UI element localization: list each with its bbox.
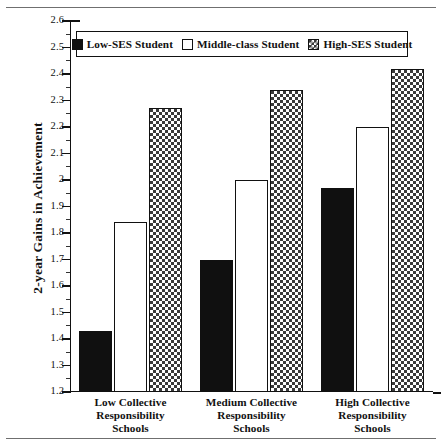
x-axis-category-label: High CollectiveResponsibilitySchools xyxy=(312,396,433,435)
x-axis-right-cap xyxy=(433,392,441,394)
x-axis-category-line: Low Collective xyxy=(70,396,191,409)
white-outline-square-icon xyxy=(182,39,193,50)
bar-mid xyxy=(356,127,389,392)
y-tick-label: 1.7 xyxy=(24,254,64,264)
x-axis-category-label: Low CollectiveResponsibilitySchools xyxy=(70,396,191,435)
y-tick-label: 2.1 xyxy=(24,148,64,158)
bar-low xyxy=(79,331,112,392)
x-axis-category-line: Schools xyxy=(312,422,433,435)
x-axis-labels: Low CollectiveResponsibilitySchoolsMediu… xyxy=(70,396,433,442)
y-tick-label: 2.4 xyxy=(24,68,64,78)
black-solid-square-icon xyxy=(72,39,83,50)
page-rule-top xyxy=(6,7,436,8)
bar-group xyxy=(70,21,191,392)
x-axis-category-line: High Collective xyxy=(312,396,433,409)
x-axis-category-line: Responsibility xyxy=(191,409,312,422)
figure-panel: 2-year Gains in Achievement 1.21.31.41.5… xyxy=(0,0,442,445)
bar-low xyxy=(321,188,354,392)
bar-high xyxy=(270,90,303,392)
y-tick-label: 1.6 xyxy=(24,280,64,290)
x-axis-category-line: Responsibility xyxy=(70,409,191,422)
y-tick-label: 1.9 xyxy=(24,201,64,211)
y-tick-label: 2.6 xyxy=(24,15,64,25)
bar-group xyxy=(191,21,312,392)
legend-item: High-SES Student xyxy=(308,38,412,50)
y-tick-label: 1.2 xyxy=(24,386,64,396)
x-axis-category-line: Schools xyxy=(191,422,312,435)
x-axis-category-line: Schools xyxy=(70,422,191,435)
y-tick-label: 1.5 xyxy=(24,307,64,317)
bar-low xyxy=(200,260,233,393)
y-tick-label: 1.3 xyxy=(24,360,64,370)
checkered-square-icon xyxy=(308,39,319,50)
bar-group xyxy=(312,21,433,392)
legend-item-label: High-SES Student xyxy=(323,38,412,50)
y-tick-label: 2 xyxy=(24,174,64,184)
legend-item: Low-SES Student xyxy=(72,38,173,50)
x-axis-category-line: Responsibility xyxy=(312,409,433,422)
y-tick-label: 2.5 xyxy=(24,42,64,52)
y-tick-label: 1.4 xyxy=(24,333,64,343)
bar-series-container xyxy=(70,21,433,392)
bar-high xyxy=(149,108,182,392)
legend-item: Middle-class Student xyxy=(182,38,299,50)
legend-item-label: Low-SES Student xyxy=(87,38,173,50)
chart-legend: Low-SES StudentMiddle-class StudentHigh-… xyxy=(76,31,408,57)
y-tick-label: 2.3 xyxy=(24,95,64,105)
y-tick-label: 1.8 xyxy=(24,227,64,237)
legend-item-label: Middle-class Student xyxy=(197,38,299,50)
y-tick-label: 2.2 xyxy=(24,121,64,131)
x-axis-category-label: Medium CollectiveResponsibilitySchools xyxy=(191,396,312,435)
bar-mid xyxy=(114,222,147,392)
bar-mid xyxy=(235,180,268,392)
bar-high xyxy=(391,69,424,392)
x-axis-category-line: Medium Collective xyxy=(191,396,312,409)
